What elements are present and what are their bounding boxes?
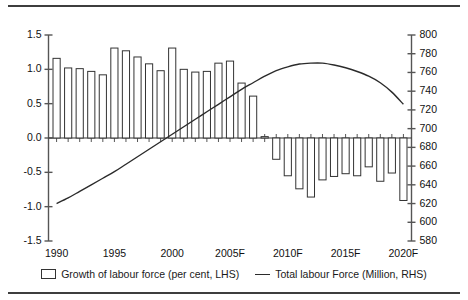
left-tick-label-5: -1.0 xyxy=(1,201,42,212)
bar-2004 xyxy=(215,63,222,138)
bar-2018F xyxy=(377,138,384,181)
legend-label-total-labour-force: Total labour Force (Million, RHS) xyxy=(275,268,427,280)
bar-1999 xyxy=(157,71,164,138)
legend-entry-total-labour-force: Total labour Force (Million, RHS) xyxy=(255,268,427,280)
x-tick-label-3: 2005F xyxy=(204,248,256,259)
bar-1996 xyxy=(122,51,129,138)
bar-2009F xyxy=(273,138,280,159)
bar-2011F xyxy=(296,138,303,189)
right-tick-label-9: 620 xyxy=(420,198,460,209)
bar-swatch-icon xyxy=(41,269,56,279)
bar-1992 xyxy=(76,69,83,138)
bar-2015F xyxy=(342,138,349,174)
bar-1997 xyxy=(134,57,141,138)
legend-entry-growth-of-labour-force: Growth of labour force (per cent, LHS) xyxy=(41,268,239,280)
x-tick-label-1: 1995 xyxy=(88,248,140,259)
bar-1995 xyxy=(111,48,118,138)
bar-2005F xyxy=(226,61,233,138)
right-tick-label-6: 680 xyxy=(420,141,460,152)
legend-label-growth-of-labour-force: Growth of labour force (per cent, LHS) xyxy=(61,268,239,280)
right-tick-label-5: 700 xyxy=(420,123,460,134)
right-tick-label-0: 800 xyxy=(420,29,460,40)
bar-1991 xyxy=(65,68,72,138)
right-tick-label-1: 780 xyxy=(420,48,460,59)
x-tick-label-4: 2010F xyxy=(262,248,314,259)
bar-2019F xyxy=(388,138,395,173)
bar-2017F xyxy=(365,138,372,167)
x-tick-label-0: 1990 xyxy=(31,248,83,259)
bar-2016F xyxy=(354,138,361,176)
bar-2013F xyxy=(319,138,326,180)
bar-2008F xyxy=(261,137,268,138)
bar-1994 xyxy=(99,75,106,138)
line-swatch-icon xyxy=(255,274,270,275)
left-tick-label-1: 1.0 xyxy=(1,63,42,74)
right-tick-label-10: 600 xyxy=(420,216,460,227)
right-tick-label-4: 720 xyxy=(420,104,460,115)
x-tick-label-2: 2000 xyxy=(146,248,198,259)
bar-2012F xyxy=(307,138,314,197)
left-tick-label-0: 1.5 xyxy=(1,29,42,40)
right-tick-label-2: 760 xyxy=(420,66,460,77)
chart-figure: 1.51.00.50.0-0.5-1.0-1.5 800780760740720… xyxy=(0,0,468,300)
left-tick-label-3: 0.0 xyxy=(1,132,42,143)
right-tick-label-3: 740 xyxy=(420,85,460,96)
left-tick-label-2: 0.5 xyxy=(1,98,42,109)
bar-2002 xyxy=(192,72,199,138)
bar-2010F xyxy=(284,138,291,176)
left-tick-label-4: -0.5 xyxy=(1,166,42,177)
bar-1998 xyxy=(145,64,152,138)
bar-1990 xyxy=(53,58,60,138)
x-tick-label-5: 2015F xyxy=(320,248,372,259)
bar-2003 xyxy=(203,71,210,138)
bar-2007F xyxy=(250,96,257,138)
bar-2000 xyxy=(169,48,176,138)
right-tick-label-11: 580 xyxy=(420,235,460,246)
left-tick-label-6: -1.5 xyxy=(1,235,42,246)
bar-1993 xyxy=(88,71,95,138)
right-tick-label-7: 660 xyxy=(420,160,460,171)
chart-legend: Growth of labour force (per cent, LHS) T… xyxy=(0,268,468,280)
x-tick-label-6: 2020F xyxy=(377,248,429,259)
right-tick-label-8: 640 xyxy=(420,179,460,190)
bar-2020F xyxy=(400,138,407,200)
bar-2014F xyxy=(330,138,337,176)
